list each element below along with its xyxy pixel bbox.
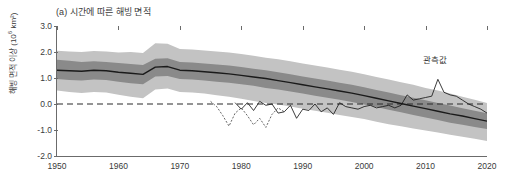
x-tick-label: 2010 [416, 161, 435, 171]
x-tick-mark [57, 26, 58, 30]
x-tick-mark [487, 26, 488, 30]
x-tick-mark [118, 26, 119, 30]
x-tick-mark [180, 26, 181, 30]
y-axis-label-exponent: 6 [7, 31, 13, 34]
y-axis-label-tail: km²) [9, 13, 18, 31]
y-tick-label: 3.0 [40, 21, 52, 31]
x-tick-mark [364, 26, 365, 30]
x-tick-label: 1990 [293, 161, 312, 171]
x-tick-mark [426, 26, 427, 30]
y-tick-label: 1.0 [40, 73, 52, 83]
x-tick-label: 1980 [232, 161, 251, 171]
plot-canvas [57, 26, 487, 156]
chart-title: (a) 시간에 따른 해빙 면적 [56, 5, 151, 18]
x-tick-label: 2000 [355, 161, 374, 171]
sea-ice-area-chart: (a) 시간에 따른 해빙 면적 해빙 면적 이상 (106 km²) 3.02… [0, 0, 510, 180]
y-axis-label: 해빙 면적 이상 (106 km²) [7, 0, 18, 114]
x-tick-label: 2020 [478, 161, 497, 171]
y-tick-label: -1.0 [37, 125, 52, 135]
y-tick-mark [54, 52, 58, 53]
y-tick-mark [54, 156, 58, 157]
x-tick-label: 1960 [109, 161, 128, 171]
x-tick-mark [241, 26, 242, 30]
y-tick-mark [54, 130, 58, 131]
y-tick-mark [54, 104, 58, 105]
x-tick-mark [303, 26, 304, 30]
observation-annotation: 관측값 [423, 53, 447, 65]
y-tick-label: 0.0 [40, 99, 52, 109]
y-tick-mark [54, 78, 58, 79]
x-tick-label: 1970 [170, 161, 189, 171]
plot-area: 3.02.01.00.0-1.0-2.0 1950196019701980199… [56, 26, 487, 157]
y-tick-label: 2.0 [40, 47, 52, 57]
y-tick-label: -2.0 [37, 151, 52, 161]
x-tick-label: 1950 [48, 161, 67, 171]
y-axis-label-base: 해빙 면적 이상 (10 [9, 34, 18, 94]
